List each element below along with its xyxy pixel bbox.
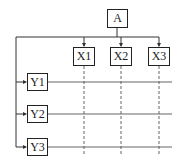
node-y2-label: Y2	[30, 107, 45, 122]
node-x1-label: X1	[77, 49, 92, 64]
node-y2: Y2	[27, 105, 48, 123]
node-y3-label: Y3	[30, 140, 45, 155]
node-x1: X1	[73, 47, 95, 66]
node-x3: X3	[148, 47, 170, 66]
node-a-label: A	[113, 11, 122, 26]
node-y3: Y3	[27, 138, 48, 156]
node-x2: X2	[110, 47, 132, 66]
node-y1-label: Y1	[30, 75, 45, 90]
node-x2-label: X2	[114, 49, 129, 64]
node-y1: Y1	[27, 73, 48, 91]
node-a: A	[107, 9, 128, 28]
node-x3-label: X3	[152, 49, 167, 64]
